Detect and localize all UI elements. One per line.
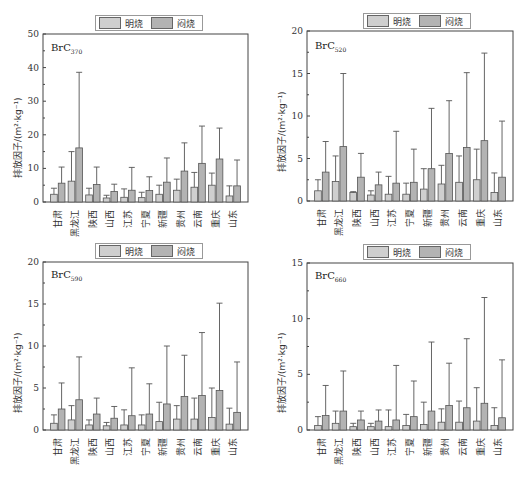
y-tick-label: 0 xyxy=(297,196,303,206)
y-tick-label: 15 xyxy=(28,299,40,309)
bar-smoldering xyxy=(463,408,470,430)
y-tick-label: 10 xyxy=(28,163,40,173)
chart-panel-brc660: 明烧 闷烧 BrC660 排放因子/(m²·kg⁻¹) 051015甘肃黑龙江陕… xyxy=(264,238,521,476)
bar-open-burning xyxy=(368,195,375,201)
bar-open-burning xyxy=(420,189,427,201)
x-category-label: 山西 xyxy=(105,438,115,456)
x-category-label: 江苏 xyxy=(122,210,133,228)
bar-open-burning xyxy=(138,198,145,202)
bar-open-burning xyxy=(226,196,233,202)
bar-open-burning xyxy=(438,184,445,201)
bar-smoldering xyxy=(199,396,206,430)
bar-smoldering xyxy=(93,414,100,430)
y-tick-label: 5 xyxy=(297,154,303,164)
y-tick-label: 0 xyxy=(297,425,303,435)
y-tick-label: 10 xyxy=(292,314,304,324)
y-tick-label: 5 xyxy=(33,383,39,393)
y-tick-label: 10 xyxy=(292,111,304,121)
bar-smoldering xyxy=(111,192,118,202)
x-category-label: 陕西 xyxy=(351,438,362,456)
y-tick-label: 0 xyxy=(33,197,39,207)
x-category-label: 甘肃 xyxy=(52,438,63,456)
x-category-label: 新疆 xyxy=(157,210,168,228)
bar-open-burning xyxy=(103,198,110,202)
x-category-label: 云南 xyxy=(192,438,203,456)
y-tick-label: 5 xyxy=(297,369,303,379)
x-category-label: 云南 xyxy=(457,438,468,456)
bar-open-burning xyxy=(173,190,180,202)
bar-smoldering xyxy=(111,418,118,430)
chart-panel-brc520: 明烧 闷烧 BrC520 排放因子/(m²·kg⁻¹) 05101520甘肃黑龙… xyxy=(264,0,521,238)
x-category-label: 江苏 xyxy=(386,438,397,456)
bar-open-burning xyxy=(456,422,463,430)
bar-open-burning xyxy=(491,193,498,202)
x-category-label: 山东 xyxy=(492,438,503,456)
bar-open-burning xyxy=(68,181,75,202)
bar-open-burning xyxy=(491,426,498,430)
bar-open-burning xyxy=(209,417,216,430)
x-category-label: 山东 xyxy=(227,210,238,228)
bar-smoldering xyxy=(322,172,329,201)
bar-smoldering xyxy=(393,420,400,430)
bar-open-burning xyxy=(385,427,392,430)
bar-smoldering xyxy=(358,177,365,201)
bar-smoldering xyxy=(411,182,418,201)
x-category-label: 贵州 xyxy=(439,438,450,456)
x-category-label: 黑龙江 xyxy=(69,210,80,237)
bar-smoldering xyxy=(375,185,382,201)
x-category-label: 重庆 xyxy=(475,438,486,456)
bar-open-burning xyxy=(385,194,392,201)
x-category-label: 新疆 xyxy=(422,209,433,227)
bar-open-burning xyxy=(226,424,233,430)
chart-panel-brc370: 明烧 闷烧 BrC370 排放因子/(m²·kg⁻¹) 01020304050甘… xyxy=(0,0,260,238)
x-category-label: 重庆 xyxy=(210,438,221,456)
x-category-label: 陕西 xyxy=(351,209,362,227)
bar-smoldering xyxy=(322,416,329,430)
y-tick-label: 30 xyxy=(28,96,40,106)
bar-smoldering xyxy=(128,416,135,430)
x-category-label: 甘肃 xyxy=(316,438,327,456)
y-tick-label: 15 xyxy=(292,258,304,268)
bar-smoldering xyxy=(234,412,241,430)
bar-smoldering xyxy=(181,396,188,430)
bar-smoldering xyxy=(164,404,171,430)
plot-area: 05101520甘肃黑龙江陕西山西江苏宁夏新疆贵州云南重庆山东 xyxy=(264,0,521,238)
bar-smoldering xyxy=(375,421,382,430)
bar-open-burning xyxy=(68,420,75,430)
bar-open-burning xyxy=(51,194,58,202)
x-category-label: 江苏 xyxy=(386,209,397,227)
bar-smoldering xyxy=(58,409,65,430)
bar-open-burning xyxy=(209,185,216,202)
bar-open-burning xyxy=(438,422,445,430)
bar-open-burning xyxy=(403,426,410,430)
x-category-label: 山东 xyxy=(227,438,238,456)
plot-area: 051015甘肃黑龙江陕西山西江苏宁夏新疆贵州云南重庆山东 xyxy=(264,238,521,476)
bar-open-burning xyxy=(86,195,93,202)
bar-open-burning xyxy=(191,419,198,430)
bar-open-burning xyxy=(86,425,93,430)
bar-open-burning xyxy=(350,427,357,430)
bar-open-burning xyxy=(138,425,145,430)
bar-smoldering xyxy=(164,182,171,202)
bar-open-burning xyxy=(51,423,58,430)
bar-smoldering xyxy=(463,147,470,201)
x-category-label: 宁夏 xyxy=(404,209,415,227)
bar-smoldering xyxy=(446,406,453,430)
bar-open-burning xyxy=(156,194,163,202)
bar-open-burning xyxy=(173,419,180,430)
bar-smoldering xyxy=(76,400,83,430)
bar-smoldering xyxy=(146,191,153,202)
y-tick-label: 40 xyxy=(28,63,40,73)
bar-smoldering xyxy=(216,159,223,202)
bar-open-burning xyxy=(350,193,357,202)
x-category-label: 山西 xyxy=(370,438,380,456)
bar-smoldering xyxy=(58,183,65,202)
x-category-label: 宁夏 xyxy=(140,438,151,456)
y-tick-label: 15 xyxy=(292,69,304,79)
bar-smoldering xyxy=(93,185,100,202)
bar-open-burning xyxy=(420,424,427,430)
x-category-label: 陕西 xyxy=(87,438,98,456)
bar-smoldering xyxy=(340,147,347,201)
bar-smoldering xyxy=(428,411,435,430)
bar-smoldering xyxy=(499,177,506,201)
